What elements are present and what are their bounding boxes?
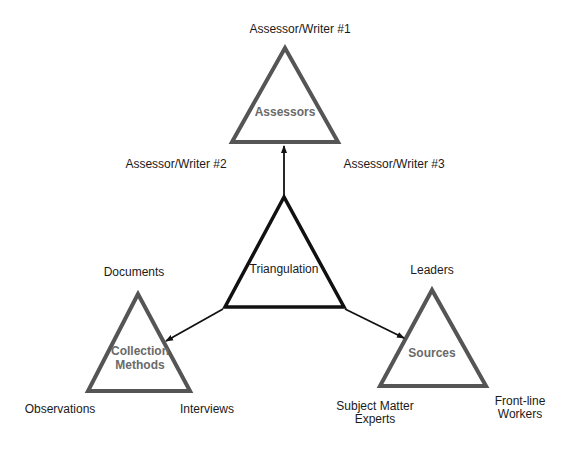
front-line-workers-label: Front-line Workers: [495, 395, 546, 421]
diagram-canvas: [0, 0, 575, 451]
collection-methods-label-line1: Collection: [111, 344, 169, 358]
documents-label: Documents: [104, 266, 165, 279]
collection-methods-triangle: [88, 294, 190, 391]
sources-label: Sources: [408, 346, 455, 360]
observations-label: Observations: [25, 403, 96, 416]
front-line-workers-line2: Workers: [495, 408, 546, 421]
assessor-writer-3-label: Assessor/Writer #3: [343, 158, 444, 171]
triangulation-triangle: [225, 197, 344, 307]
leaders-label: Leaders: [410, 264, 453, 277]
assessor-writer-2-label: Assessor/Writer #2: [125, 158, 226, 171]
interviews-label: Interviews: [180, 403, 234, 416]
collection-methods-label-line2: Methods: [111, 358, 169, 372]
arrow-to-sources: [345, 309, 404, 338]
subject-matter-experts-line2: Experts: [336, 413, 413, 426]
subject-matter-experts-label: Subject Matter Experts: [336, 400, 413, 426]
assessor-writer-1-label: Assessor/Writer #1: [249, 23, 350, 36]
assessors-triangle: [232, 48, 338, 142]
triangulation-label: Triangulation: [250, 262, 319, 276]
arrow-to-collection-methods: [166, 309, 223, 341]
assessors-label: Assessors: [255, 105, 316, 119]
sources-triangle: [380, 290, 486, 386]
collection-methods-label: Collection Methods: [111, 344, 169, 372]
